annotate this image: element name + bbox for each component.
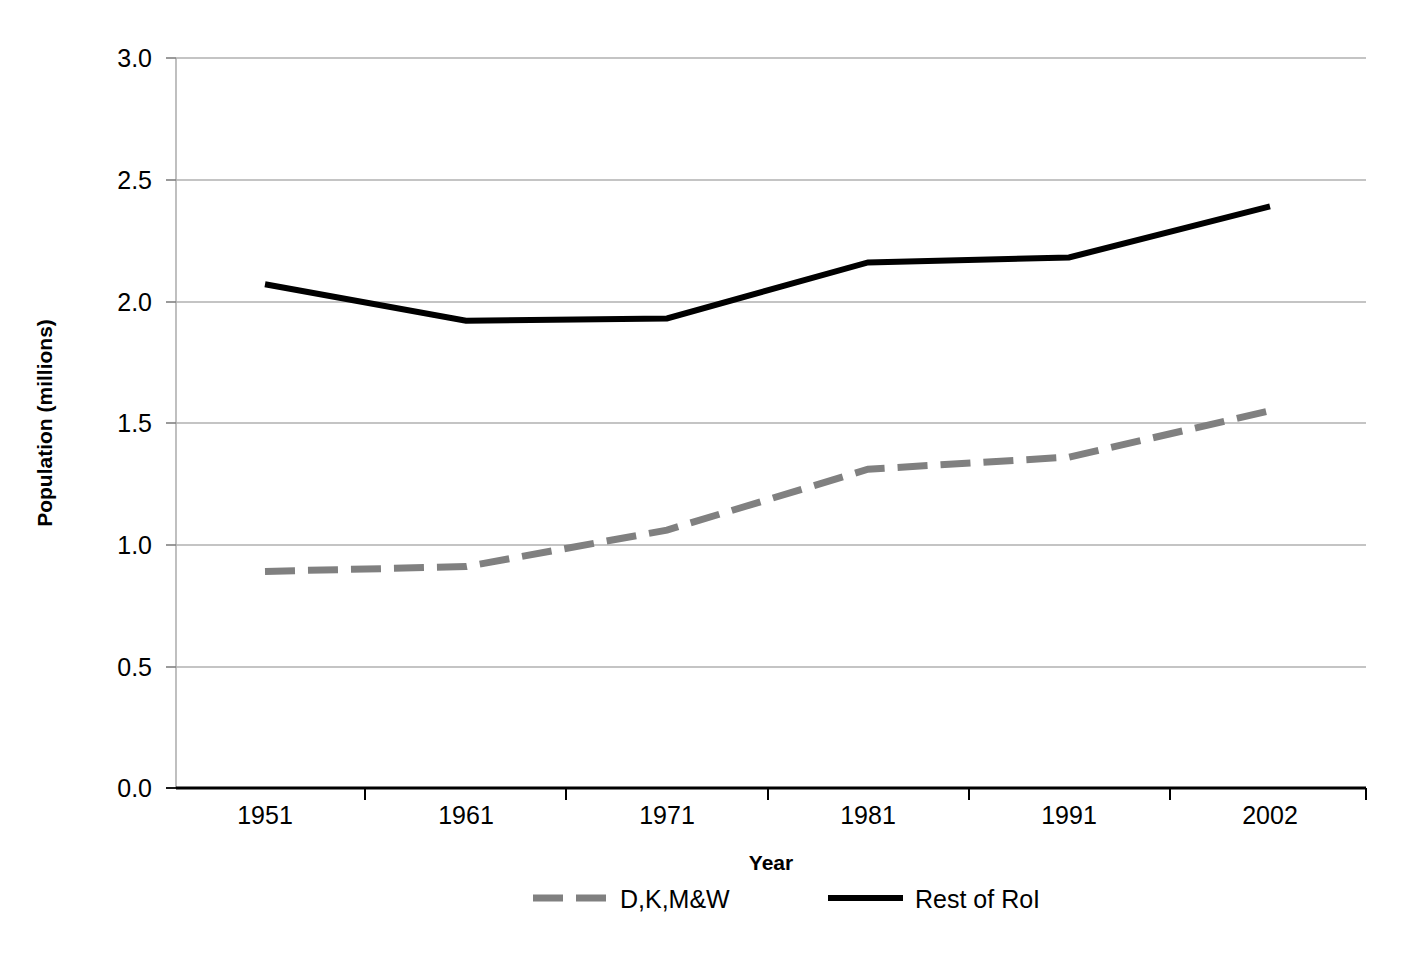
chart-container: 3.0 2.5 2.0 1.5 1.0 0.5 0.0 1951 1961 19… bbox=[0, 0, 1426, 970]
x-tick-label-2002: 2002 bbox=[1242, 801, 1298, 829]
x-tick-label-1951: 1951 bbox=[237, 801, 293, 829]
y-tick-label-2-5: 2.5 bbox=[117, 166, 152, 194]
x-axis-title: Year bbox=[749, 851, 793, 874]
y-tick-label-3-0: 3.0 bbox=[117, 44, 152, 72]
chart-background bbox=[0, 0, 1426, 970]
x-tick-label-1991: 1991 bbox=[1041, 801, 1097, 829]
legend-label-dkmw: D,K,M&W bbox=[620, 885, 730, 913]
y-tick-label-0-0: 0.0 bbox=[117, 774, 152, 802]
y-axis-title: Population (millions) bbox=[33, 319, 56, 527]
y-tick-label-1-5: 1.5 bbox=[117, 409, 152, 437]
legend-label-rest-of-roi: Rest of RoI bbox=[915, 885, 1040, 913]
line-chart: 3.0 2.5 2.0 1.5 1.0 0.5 0.0 1951 1961 19… bbox=[0, 0, 1426, 970]
x-tick-label-1971: 1971 bbox=[639, 801, 695, 829]
y-tick-label-1-0: 1.0 bbox=[117, 531, 152, 559]
y-tick-label-0-5: 0.5 bbox=[117, 653, 152, 681]
x-tick-label-1961: 1961 bbox=[438, 801, 494, 829]
x-tick-label-1981: 1981 bbox=[840, 801, 896, 829]
y-tick-label-2-0: 2.0 bbox=[117, 288, 152, 316]
